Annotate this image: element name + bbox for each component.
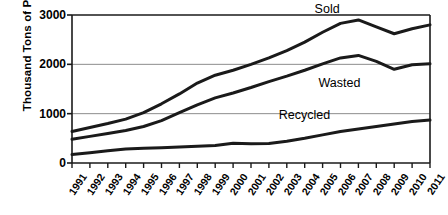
x-axis-tick-labels: 1991199219931994199519961997199819992000… — [0, 0, 448, 215]
series-label-recycled: Recycled — [279, 108, 330, 122]
series-label-wasted: Wasted — [319, 76, 361, 90]
chart-container: Thousand Tons of PET 3000200010000 19911… — [0, 0, 448, 215]
series-label-sold: Sold — [315, 2, 340, 16]
